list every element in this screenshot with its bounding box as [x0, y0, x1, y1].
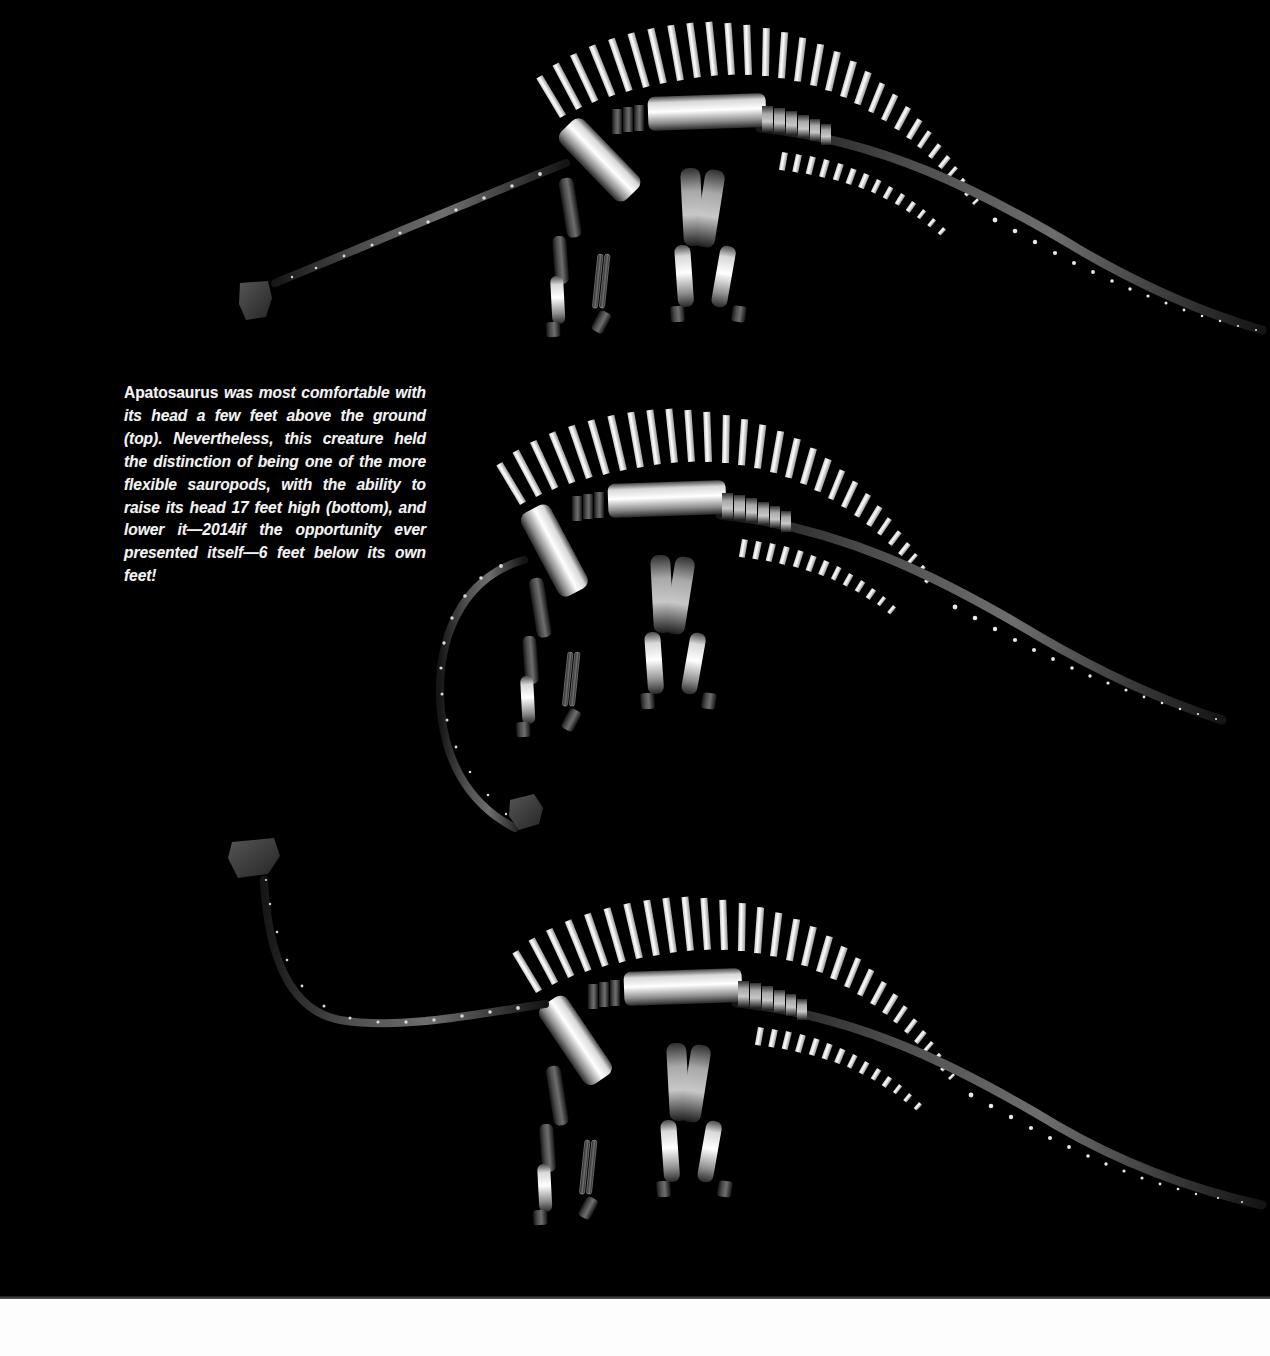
chevrons-top	[779, 152, 946, 236]
dorsal-vertebrae-middle	[607, 480, 726, 518]
skeleton-svg-bottom	[0, 0, 1270, 1356]
pelvis-top	[762, 106, 831, 145]
cervical-vertebrae-bottom	[264, 880, 545, 1023]
chevrons-middle	[739, 539, 896, 614]
chevrons-bottom	[755, 1027, 922, 1111]
figure-apatosaurus-neck-level	[0, 0, 1270, 1356]
dorsal-vertebrae-top	[647, 93, 766, 131]
page-canvas: Apatosaurus was most comfortable with it…	[0, 0, 1270, 1356]
head-top	[239, 281, 272, 320]
forelimb-top	[546, 177, 612, 337]
cervical-dots-top	[291, 172, 542, 278]
caudal-vertebrae-top	[760, 128, 1262, 330]
cervical-junction-bottom	[588, 980, 620, 1009]
scapula-top	[555, 115, 644, 206]
skeleton-svg-middle	[0, 0, 1270, 1356]
caption-body: was most comfortable with its head a few…	[124, 384, 426, 584]
caudal-dots-top	[993, 218, 1257, 331]
cervical-vertebrae-top	[275, 163, 566, 283]
figure-apatosaurus-neck-lowered	[0, 0, 1270, 1356]
dorsal-spines-bottom	[512, 897, 955, 1081]
caudal-dots-middle	[953, 605, 1217, 720]
dorsal-spines-middle	[496, 409, 932, 584]
dorsal-vertebrae-bottom	[623, 968, 742, 1006]
skeleton-top	[239, 22, 1262, 338]
figure-caption: Apatosaurus was most comfortable with it…	[124, 382, 426, 588]
caudal-vertebrae-bottom	[736, 1003, 1262, 1205]
skeleton-middle	[439, 409, 1222, 830]
figure-apatosaurus-neck-raised	[0, 0, 1270, 1356]
dorsal-spines-top	[536, 22, 979, 206]
cervical-dots-middle	[439, 564, 507, 815]
caption-genus-name: Apatosaurus	[124, 384, 218, 401]
caudal-vertebrae-middle	[720, 515, 1222, 720]
head-bottom	[228, 838, 280, 878]
cervical-junction-middle	[572, 492, 604, 521]
pelvis-middle	[722, 493, 791, 532]
page-bottom-margin	[0, 1299, 1270, 1356]
scapula-bottom	[535, 992, 615, 1088]
head-middle	[509, 794, 543, 830]
forelimb-bottom	[533, 1065, 599, 1225]
hindlimb-top	[670, 167, 747, 322]
scapula-middle	[518, 501, 591, 599]
caudal-dots-bottom	[969, 1093, 1243, 1203]
skeleton-bottom	[228, 838, 1262, 1225]
forelimb-middle	[516, 577, 582, 737]
skeleton-svg-top	[0, 0, 1270, 1356]
pelvis-bottom	[738, 981, 807, 1020]
cervical-junction-top	[612, 105, 644, 134]
hindlimb-middle	[640, 554, 717, 709]
cervical-vertebrae-middle	[440, 560, 524, 828]
cervical-dots-bottom	[265, 879, 520, 1024]
hindlimb-bottom	[656, 1042, 733, 1197]
